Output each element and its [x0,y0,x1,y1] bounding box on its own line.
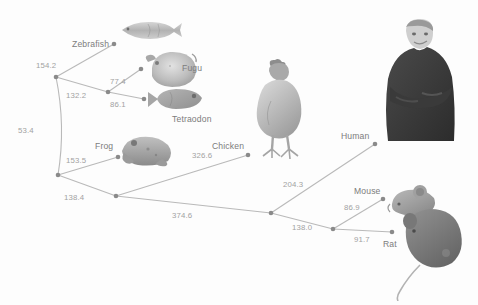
branch-length-bl-rodent-stem: 138.0 [292,224,312,232]
internal-node-n-pufferfish [106,90,111,95]
tetraodon-photo [146,86,206,112]
branch-length-bl-fish-tetrapod: 53.4 [18,127,34,135]
taxon-label-fugu: Fugu [182,64,202,73]
taxon-label-human: Human [341,132,369,141]
branch-length-bl-frog: 153.5 [66,157,86,165]
tree-edge-e-root-pufferfish [56,77,108,92]
branch-length-bl-pufferfish-stem: 132.2 [66,92,86,100]
branch-length-bl-human: 204.3 [283,181,303,189]
branch-length-bl-mouse: 86.9 [344,204,360,212]
taxon-label-zebrafish: Zebrafish [72,40,109,49]
internal-node-n-tetrapod [56,173,61,178]
taxon-node-rat [390,230,395,235]
zebrafish-photo [118,18,184,42]
internal-node-n-mammal [269,211,274,216]
branch-length-bl-tetraodon: 86.1 [110,101,126,109]
branch-length-bl-chicken: 326.6 [192,152,212,160]
internal-node-n-fish-root [54,75,59,80]
branch-length-bl-amniote-stem: 138.4 [64,194,84,202]
taxon-label-frog: Frog [95,142,113,151]
branch-length-bl-mammal-stem: 374.6 [172,212,192,220]
tree-edge-e-pufferfish-tetraodon [108,92,144,99]
branch-length-bl-rat: 91.7 [354,236,370,244]
taxon-label-tetraodon: Tetraodon [172,115,212,124]
taxon-node-mouse [381,197,386,202]
internal-node-n-rodent [331,227,336,232]
taxon-label-mouse: Mouse [354,187,381,196]
branch-length-bl-fugu: 77.4 [110,78,126,86]
branch-length-bl-zebrafish: 154.2 [36,62,56,70]
tree-edge-e-rodent-rat [333,229,392,232]
phylogenetic-tree-figure: ZebrafishFuguTetraodonFrogChickenHumanMo… [0,0,478,305]
human-photo [376,17,460,145]
taxon-label-chicken: Chicken [212,142,244,151]
taxon-node-zebrafish [112,42,117,47]
rat-photo [396,205,470,301]
tree-edge-e-amniote-mammal [116,196,271,213]
chicken-photo [249,57,311,162]
internal-node-n-amniote [114,194,119,199]
tree-edge-e-root-tetrapod [56,77,62,175]
frog-photo [118,133,176,169]
taxon-label-rat: Rat [383,240,397,249]
